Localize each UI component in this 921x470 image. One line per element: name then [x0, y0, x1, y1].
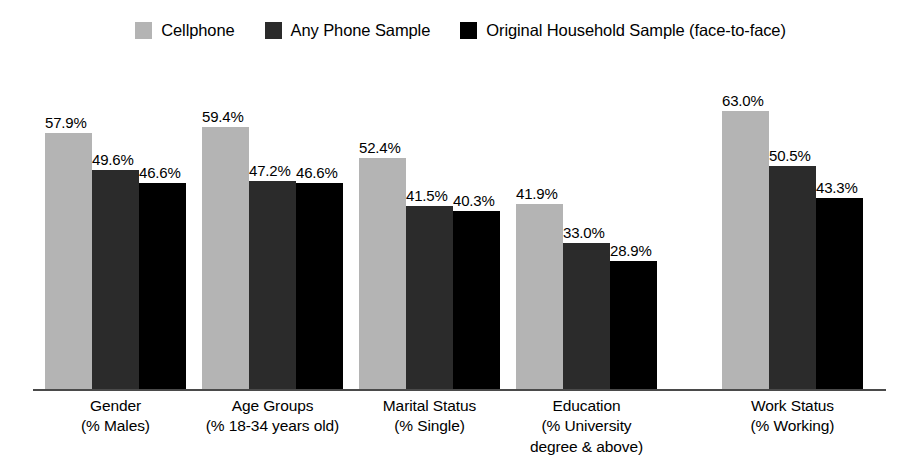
bar-item[interactable]: 33.0%	[563, 243, 610, 389]
bar-value-label: 28.9%	[610, 243, 652, 258]
bar[interactable]	[45, 133, 92, 389]
bar-value-label: 46.6%	[139, 165, 181, 180]
bar-value-label: 63.0%	[722, 93, 764, 108]
bar[interactable]	[516, 204, 563, 389]
bar-chart: Cellphone Any Phone Sample Original Hous…	[0, 0, 921, 470]
bar-value-label: 43.3%	[816, 180, 858, 195]
bar[interactable]	[722, 111, 769, 389]
bar-item[interactable]: 52.4%	[359, 158, 406, 389]
bar[interactable]	[92, 170, 139, 389]
bar-value-label: 49.6%	[92, 152, 134, 167]
bar[interactable]	[769, 166, 816, 389]
bar-group: 63.0%50.5%43.3%	[722, 111, 863, 389]
bar[interactable]	[139, 183, 186, 389]
category-label: Work Status (% Working)	[688, 396, 898, 437]
bar-item[interactable]: 63.0%	[722, 111, 769, 389]
x-axis-line	[33, 389, 886, 391]
bar[interactable]	[249, 181, 296, 389]
bar[interactable]	[816, 198, 863, 389]
bar[interactable]	[453, 211, 500, 389]
bar[interactable]	[563, 243, 610, 389]
bar-item[interactable]: 28.9%	[610, 261, 657, 389]
bar-item[interactable]: 49.6%	[92, 170, 139, 389]
bar-item[interactable]: 41.5%	[406, 206, 453, 389]
bar-item[interactable]: 57.9%	[45, 133, 92, 389]
bar[interactable]	[406, 206, 453, 389]
bar-value-label: 40.3%	[453, 193, 495, 208]
bar-value-label: 41.9%	[516, 186, 558, 201]
bar-group: 52.4%41.5%40.3%	[359, 158, 500, 389]
bar[interactable]	[202, 127, 249, 389]
plot-area: 57.9%49.6%46.6%Gender (% Males)59.4%47.2…	[0, 0, 921, 470]
bar-value-label: 57.9%	[45, 115, 87, 130]
bar-value-label: 59.4%	[202, 109, 244, 124]
bar-value-label: 50.5%	[769, 148, 811, 163]
bar-value-label: 33.0%	[563, 225, 605, 240]
bar[interactable]	[359, 158, 406, 389]
bar-group: 59.4%47.2%46.6%	[202, 127, 343, 389]
bar-item[interactable]: 46.6%	[139, 183, 186, 389]
bar[interactable]	[610, 261, 657, 389]
bar-item[interactable]: 41.9%	[516, 204, 563, 389]
bar[interactable]	[296, 183, 343, 389]
bar-item[interactable]: 50.5%	[769, 166, 816, 389]
bar-item[interactable]: 43.3%	[816, 198, 863, 389]
bar-group: 57.9%49.6%46.6%	[45, 133, 186, 389]
bar-item[interactable]: 46.6%	[296, 183, 343, 389]
bar-value-label: 46.6%	[296, 165, 338, 180]
bar-item[interactable]: 40.3%	[453, 211, 500, 389]
category-label: Education (% University degree & above)	[482, 396, 692, 457]
bar-item[interactable]: 47.2%	[249, 181, 296, 389]
bar-group: 41.9%33.0%28.9%	[516, 204, 657, 389]
bar-value-label: 41.5%	[406, 188, 448, 203]
bar-item[interactable]: 59.4%	[202, 127, 249, 389]
bar-value-label: 52.4%	[359, 140, 401, 155]
bar-value-label: 47.2%	[249, 163, 291, 178]
